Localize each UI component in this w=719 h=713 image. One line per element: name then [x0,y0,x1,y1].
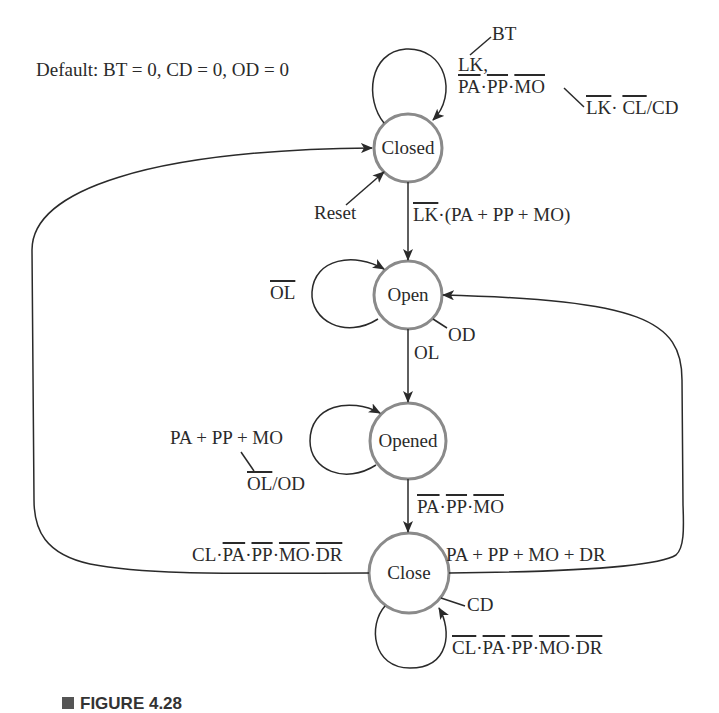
opened-to-close-cond: PA·PP·MO [417,497,504,517]
close-output-cd: CD [467,595,493,615]
state-open-label: Open [387,284,428,306]
closed-self-loop [373,49,446,123]
close-to-closed-cond: CL·PA·PP·MO·DR [192,545,342,565]
state-closed-label: Closed [382,137,435,159]
close-output-line [441,598,465,606]
open-output-line [433,319,447,328]
close-to-open-arrow [443,295,683,573]
closed-output-bt: BT [492,24,516,44]
figure-caption: FIGURE 4.28 [62,694,182,713]
close-self-cond: CL·PA·PP·MO·DR [452,638,602,658]
close-self-loop [375,606,446,668]
reset-arrow [346,172,384,205]
reset-label: Reset [314,203,356,223]
open-output-od: OD [448,325,475,345]
opened-self-output: OL/OD [247,474,305,494]
state-close-label: Close [387,562,430,584]
closed-self-cond-line1: LK, [458,55,488,75]
opened-self-cond: PA + PP + MO [170,428,283,448]
bt-leader-line [470,37,491,55]
closed-output-cd: LK· CL/CD [586,98,678,118]
open-to-opened-cond: OL [414,343,439,363]
opened-od-leader-line [241,452,254,471]
closed-self-cond-line2: PA·PP·MO [458,77,545,97]
state-opened-label: Opened [378,430,437,452]
open-self-cond: OL [270,283,295,303]
close-to-open-cond: PA + PP + MO + DR [446,545,606,565]
closed-to-open-cond: LK·(PA + PP + MO) [413,205,570,225]
caption-square-icon [62,697,74,709]
default-outputs-note: Default: BT = 0, CD = 0, OD = 0 [36,60,289,80]
cd-leader-line [564,88,584,107]
